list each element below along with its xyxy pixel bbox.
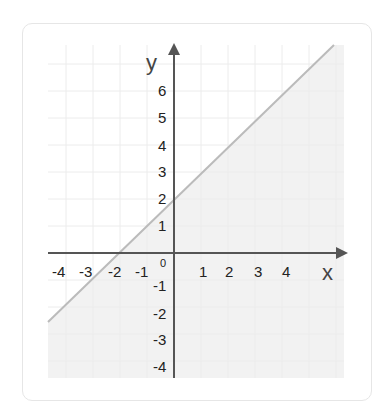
origin-label: 0 — [160, 257, 166, 269]
y-tick: -2 — [153, 305, 166, 322]
x-tick: 3 — [254, 263, 262, 280]
y-tick: 2 — [158, 190, 166, 207]
y-tick: 3 — [158, 163, 166, 180]
x-axis-label: x — [322, 260, 333, 285]
y-tick: 1 — [158, 217, 166, 234]
shaded-region — [48, 45, 344, 378]
y-tick: -1 — [153, 277, 166, 294]
x-tick: 1 — [199, 263, 207, 280]
x-tick: 4 — [282, 263, 290, 280]
y-tick: 4 — [158, 137, 166, 154]
y-axis-label: y — [146, 50, 157, 75]
y-tick: 5 — [158, 109, 166, 126]
coordinate-plane: y x 0 -4 -3 -2 -1 1 2 3 4 6 5 4 3 2 1 -1… — [0, 0, 389, 420]
x-tick: -2 — [108, 263, 121, 280]
x-tick: -1 — [135, 263, 148, 280]
y-tick: -4 — [153, 358, 166, 375]
y-tick: -3 — [153, 331, 166, 348]
x-tick: -4 — [52, 263, 65, 280]
x-tick: 2 — [225, 263, 233, 280]
y-tick: 6 — [158, 82, 166, 99]
x-tick: -3 — [79, 263, 92, 280]
y-axis-arrow-icon — [168, 43, 180, 55]
